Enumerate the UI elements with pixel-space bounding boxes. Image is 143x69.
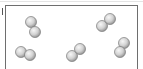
molecule-scene — [0, 0, 143, 69]
molecule-m1 — [26, 17, 41, 38]
molecule-m2 — [97, 14, 116, 32]
atom-sphere — [75, 44, 86, 55]
atom-sphere — [115, 47, 126, 58]
molecule-m5 — [115, 38, 130, 58]
atom-sphere — [105, 14, 116, 25]
molecule-m3 — [16, 47, 36, 61]
atom-sphere — [26, 17, 37, 28]
molecules-group — [16, 14, 130, 62]
atom-sphere — [25, 50, 36, 61]
atom-sphere — [30, 27, 41, 38]
molecule-m4 — [67, 44, 86, 62]
